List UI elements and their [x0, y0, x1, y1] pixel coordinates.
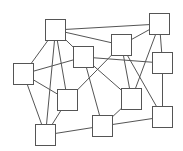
- edge-B-E: [84, 57, 163, 63]
- node-H: [36, 125, 56, 146]
- node-K: [153, 107, 173, 128]
- node-D: [112, 35, 132, 56]
- node-E: [153, 53, 173, 74]
- node-J: [122, 89, 142, 110]
- node-G: [58, 90, 78, 111]
- edge-A-H: [46, 30, 56, 135]
- node-F: [14, 64, 34, 85]
- node-C: [150, 14, 170, 35]
- network-graph: [0, 0, 183, 151]
- graph-nodes: [14, 14, 173, 146]
- edge-A-C: [56, 24, 160, 30]
- node-A: [46, 20, 66, 41]
- node-B: [74, 47, 94, 68]
- node-I: [93, 116, 113, 137]
